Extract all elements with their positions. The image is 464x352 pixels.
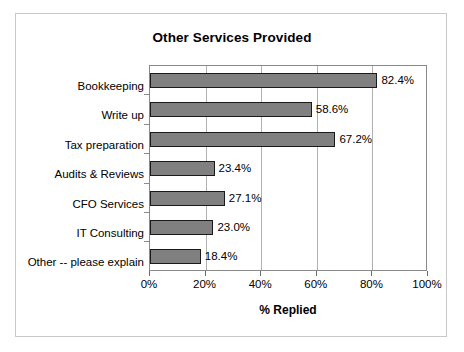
x-axis-label-0: 0% (119, 278, 179, 290)
category-axis: Bookkeeping Write up Tax preparation Aud… (16, 65, 144, 271)
bar-audits-reviews[interactable] (150, 161, 215, 176)
bar-value-other: 18.4% (205, 248, 238, 264)
x-axis-tick (205, 271, 206, 276)
chart-figure: Other Services Provided Bookkeeping Writ… (15, 13, 447, 337)
bar-write-up[interactable] (150, 102, 312, 117)
bar-value-bookkeeping: 82.4% (381, 72, 414, 88)
bar-row: 23.4% (150, 154, 426, 183)
bar-value-tax-preparation: 67.2% (339, 131, 372, 147)
x-axis-tick (260, 271, 261, 276)
category-label-it-consulting: IT Consulting (16, 225, 144, 241)
x-axis-tick (371, 271, 372, 276)
bar-row: 27.1% (150, 184, 426, 213)
bar-row: 58.6% (150, 95, 426, 124)
bar-cfo-services[interactable] (150, 191, 225, 206)
category-label-audits-reviews: Audits & Reviews (16, 166, 144, 182)
x-axis-label-40: 40% (230, 278, 290, 290)
bar-row: 67.2% (150, 125, 426, 154)
x-axis-tick (316, 271, 317, 276)
plot-area: 82.4% 58.6% 67.2% 23.4% 27.1% 23.0% 18.4… (149, 65, 427, 271)
bar-row: 23.0% (150, 213, 426, 242)
bar-value-it-consulting: 23.0% (217, 219, 250, 235)
bar-row: 18.4% (150, 242, 426, 271)
x-axis-label-60: 60% (286, 278, 346, 290)
x-axis-tick (427, 271, 428, 276)
chart-title: Other Services Provided (16, 30, 448, 45)
bar-value-audits-reviews: 23.4% (219, 160, 252, 176)
x-axis-label-100: 100% (397, 278, 457, 290)
bar-bookkeeping[interactable] (150, 73, 377, 88)
x-axis-label-20: 20% (175, 278, 235, 290)
x-axis-title: % Replied (149, 303, 427, 317)
category-label-other: Other -- please explain (16, 254, 144, 270)
bar-it-consulting[interactable] (150, 220, 213, 235)
bar-value-write-up: 58.6% (316, 101, 349, 117)
category-label-write-up: Write up (16, 107, 144, 123)
x-axis-tick (149, 271, 150, 276)
category-label-bookkeeping: Bookkeeping (16, 78, 144, 94)
bar-value-cfo-services: 27.1% (229, 190, 262, 206)
category-label-tax-preparation: Tax preparation (16, 137, 144, 153)
bar-other[interactable] (150, 249, 201, 264)
bar-tax-preparation[interactable] (150, 132, 335, 147)
x-axis-label-80: 80% (341, 278, 401, 290)
category-label-cfo-services: CFO Services (16, 196, 144, 212)
bar-row: 82.4% (150, 66, 426, 95)
